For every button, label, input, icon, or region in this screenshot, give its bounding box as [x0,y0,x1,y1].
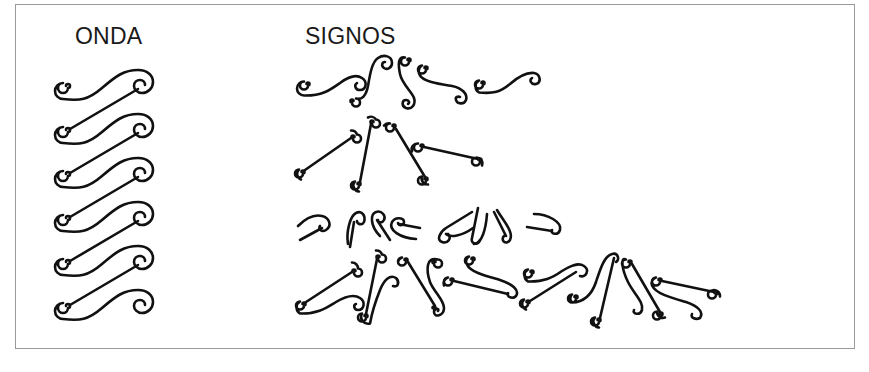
signos-row-3 [298,208,560,247]
onda-wave-6 [55,290,153,320]
signos-row-4 [296,250,720,327]
onda-wave-1 [55,70,153,129]
signos-row-2 [295,117,482,192]
signos-row-1 [297,56,540,108]
onda-wave-chain [55,70,153,320]
scroll-artwork [0,0,869,372]
onda-wave-3 [55,158,153,217]
onda-wave-5 [55,246,153,305]
onda-wave-2 [55,114,153,173]
onda-wave-4 [55,202,153,261]
